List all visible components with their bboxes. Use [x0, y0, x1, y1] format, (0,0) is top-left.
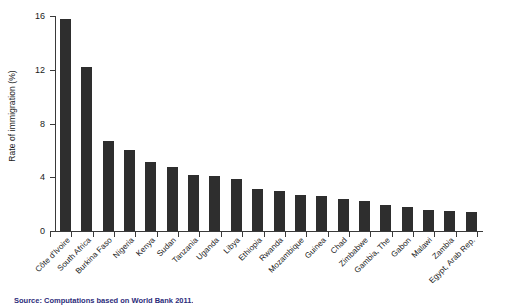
bar [252, 189, 263, 231]
y-tick [50, 70, 55, 71]
y-axis-title: Rate of immigration (%) [0, 0, 24, 232]
y-tick-label: 12 [35, 65, 45, 75]
x-tick [50, 232, 51, 237]
y-tick-label: 4 [40, 172, 45, 182]
bar-chart-figure: Rate of immigration (%) 0481216 Côte d'I… [0, 0, 514, 305]
y-tick-label: 0 [40, 226, 45, 236]
plot-area: 0481216 [55, 16, 482, 231]
y-tick [50, 124, 55, 125]
bar [60, 19, 71, 231]
y-tick [50, 16, 55, 17]
y-tick-label: 16 [35, 11, 45, 21]
bar [81, 67, 92, 231]
y-axis-spine [55, 16, 56, 232]
source-note: Source: Computations based on World Bank… [14, 296, 193, 305]
y-tick-label: 8 [40, 119, 45, 129]
y-tick [50, 177, 55, 178]
x-category-labels: Côte d'IvoireSouth AfricaBurkina FasoNig… [55, 231, 514, 291]
y-axis-title-text: Rate of immigration (%) [7, 70, 17, 162]
